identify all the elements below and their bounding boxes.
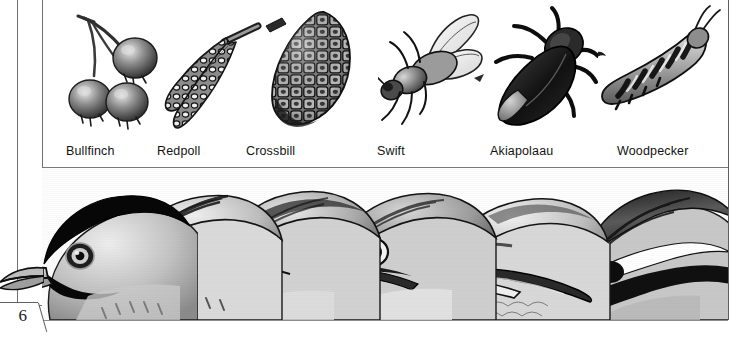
label-swift: Swift [377, 144, 405, 158]
bird-label-row: Bullfinch Redpoll Crossbill Swift Akiapo… [0, 144, 741, 164]
label-woodpecker: Woodpecker [617, 144, 688, 158]
bird-heads-panel [42, 168, 728, 320]
page-number: 6 [6, 306, 40, 326]
bullfinch-head-icon [42, 168, 198, 320]
beetle-icon [488, 2, 598, 138]
pine-cone-icon [264, 2, 364, 138]
book-page: Bullfinch Redpoll Crossbill Swift Akiapo… [0, 0, 741, 342]
label-crossbill: Crossbill [246, 144, 295, 158]
caterpillar-icon [598, 2, 728, 138]
label-redpoll: Redpoll [157, 144, 200, 158]
food-illustration-row [42, 2, 728, 138]
fly-icon [378, 2, 486, 138]
label-akiapolaau: Akiapolaau [490, 144, 553, 158]
bullfinch-beak-bleed [0, 168, 44, 320]
figure-panel-baseline-rule [42, 320, 728, 321]
label-bullfinch: Bullfinch [66, 144, 115, 158]
catkins-icon [154, 2, 264, 138]
